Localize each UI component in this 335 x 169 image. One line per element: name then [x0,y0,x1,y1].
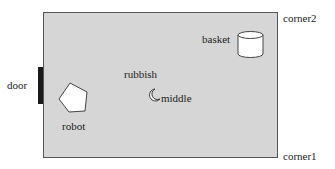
middle-label: middle [161,92,192,104]
corner2-label: corner2 [283,12,317,24]
rubbish-label: rubbish [124,68,157,80]
rubbish-crescent-icon [147,88,161,102]
corner1-label: corner1 [283,150,317,162]
door-bar [38,67,43,104]
basket-cylinder-icon [237,30,264,58]
door-label: door [7,79,27,91]
basket-label: basket [202,33,230,45]
robot-pentagon-icon [58,82,92,116]
robot-label: robot [62,120,85,132]
